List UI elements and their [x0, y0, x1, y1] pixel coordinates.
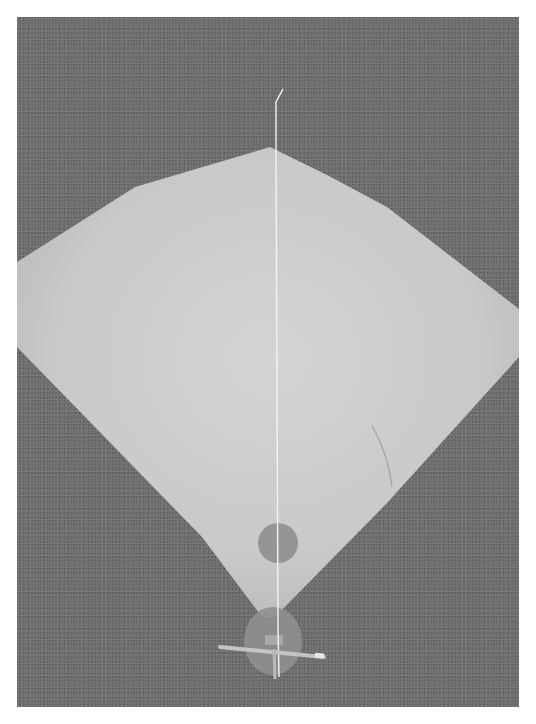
photo: [17, 17, 519, 707]
stick-tip: [315, 653, 324, 659]
vertical-stick: [274, 649, 275, 679]
tape-piece: [265, 635, 283, 645]
kite-scene: [17, 17, 519, 707]
